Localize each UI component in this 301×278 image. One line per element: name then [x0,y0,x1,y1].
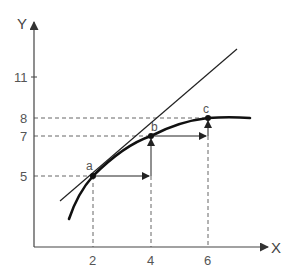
tangent-line [60,49,237,201]
horizontal-guides [34,118,208,176]
y-tick-label-8: 8 [20,112,27,125]
x-tick-label-4: 4 [147,254,154,267]
point-label-a: a [86,160,93,172]
x-tick-label-2: 2 [89,254,96,267]
y-tick-label-5: 5 [20,170,27,183]
point-a [90,173,96,179]
production-curve [69,117,250,219]
diagram-svg [0,0,301,278]
diagram-canvas: Y X 11 8 7 5 2 4 6 a b c [0,0,301,278]
point-label-c: c [203,103,209,115]
y-tick-label-11: 11 [14,71,28,84]
y-axis-label: Y [17,16,27,31]
x-axis-label: X [271,240,281,255]
x-tick-label-6: 6 [204,254,211,267]
y-tick-label-7: 7 [20,130,27,143]
point-label-b: b [151,121,158,133]
